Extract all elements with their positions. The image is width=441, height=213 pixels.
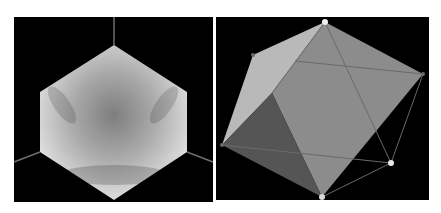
- figure-canvas: [0, 0, 441, 213]
- node-lower-right: [388, 160, 394, 166]
- node-top: [322, 19, 328, 25]
- node-bottom: [319, 194, 325, 200]
- shade-band-bottom: [59, 165, 169, 185]
- node-upper-left: [251, 53, 255, 57]
- node-right: [421, 72, 425, 76]
- left-panel-hexagon-view: [14, 17, 213, 202]
- node-left: [220, 143, 224, 147]
- right-panel-polyhedron-view: [216, 17, 429, 200]
